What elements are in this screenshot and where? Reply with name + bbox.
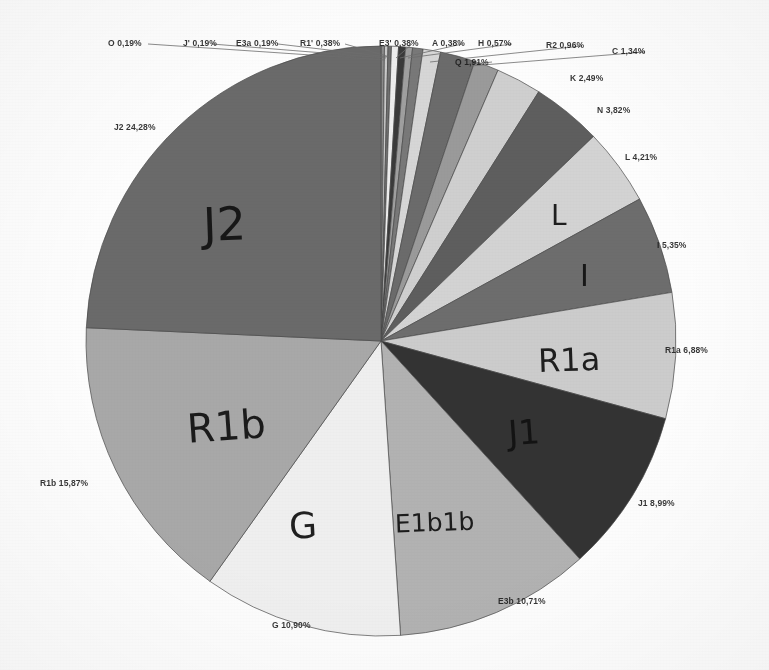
outer-label-jp: J' 0,19%: [183, 38, 217, 48]
outer-label-o: O 0,19%: [108, 38, 142, 48]
hand-label-g: G: [288, 504, 318, 546]
hand-label-j1: J1: [507, 411, 541, 453]
outer-label-r1b: R1b 15,87%: [40, 478, 88, 488]
outer-label-j2: J2 24,28%: [114, 122, 156, 132]
outer-label-h: H 0,57%: [478, 38, 511, 48]
outer-label-n: N 3,82%: [597, 105, 630, 115]
pie-chart-canvas: [0, 0, 769, 670]
hand-label-r1b: R1b: [185, 400, 267, 451]
outer-label-e3p: E3' 0,38%: [379, 38, 419, 48]
hand-label-i: I: [580, 258, 589, 293]
hand-label-j2: J2: [202, 196, 247, 251]
outer-label-q: Q 1,91%: [455, 57, 489, 67]
outer-label-e3b: E3b 10,71%: [498, 596, 546, 606]
slice-j2[interactable]: [86, 46, 381, 341]
outer-label-e3a: E3a 0,19%: [236, 38, 279, 48]
hand-label-l: L: [551, 199, 567, 232]
outer-label-a: A 0,38%: [432, 38, 465, 48]
pie-chart: O 0,19%J' 0,19%E3a 0,19%R1' 0,38%E3' 0,3…: [0, 0, 769, 670]
outer-label-c: C 1,34%: [612, 46, 645, 56]
outer-label-r1p: R1' 0,38%: [300, 38, 340, 48]
hand-label-r1a: R1a: [537, 340, 600, 380]
outer-label-i: I 5,35%: [657, 240, 687, 250]
outer-label-g: G 10,90%: [272, 620, 311, 630]
outer-label-j1: J1 8,99%: [638, 498, 675, 508]
outer-label-r1a: R1a 6,88%: [665, 345, 708, 355]
outer-label-l: L 4,21%: [625, 152, 657, 162]
outer-label-k: K 2,49%: [570, 73, 603, 83]
outer-label-r2: R2 0,96%: [546, 40, 584, 50]
hand-label-e1b1b: E1b1b: [395, 507, 475, 539]
